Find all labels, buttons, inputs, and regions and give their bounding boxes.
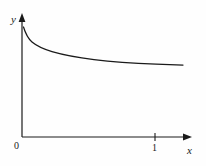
chart-figure: y x 0 1 bbox=[0, 0, 206, 166]
y-axis-label: y bbox=[11, 14, 16, 25]
x-axis-arrow-icon bbox=[183, 134, 192, 141]
curve-decaying bbox=[24, 27, 184, 65]
y-axis-arrow-icon bbox=[19, 13, 26, 22]
x-tick-label-1: 1 bbox=[152, 143, 157, 153]
plot-canvas bbox=[0, 0, 206, 166]
origin-label: 0 bbox=[14, 141, 19, 151]
x-axis-label: x bbox=[187, 145, 192, 156]
